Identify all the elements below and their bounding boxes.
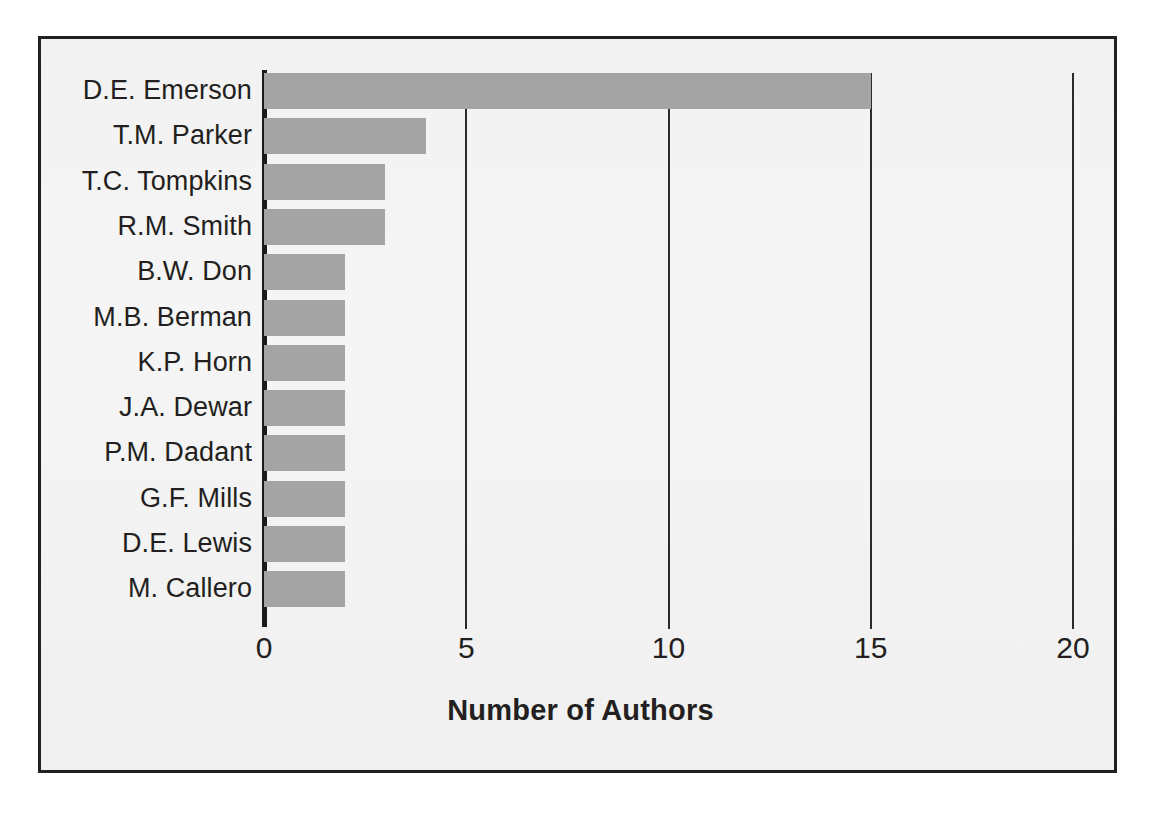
bar [264, 209, 385, 245]
category-label: M.B. Berman [42, 304, 252, 331]
category-label: G.F. Mills [42, 485, 252, 512]
category-label: T.M. Parker [42, 122, 252, 149]
x-axis-title: Number of Authors [41, 694, 1120, 727]
category-label: M. Callero [42, 575, 252, 602]
bar [264, 254, 345, 290]
category-axis-labels: D.E. EmersonT.M. ParkerT.C. TompkinsR.M.… [41, 39, 252, 776]
bar [264, 164, 385, 200]
category-label: B.W. Don [42, 258, 252, 285]
bar [264, 481, 345, 517]
category-label: P.M. Dadant [42, 439, 252, 466]
category-label: R.M. Smith [42, 213, 252, 240]
tick-label: 20 [1056, 631, 1089, 665]
category-label: D.E. Lewis [42, 530, 252, 557]
bar [264, 73, 871, 109]
bar [264, 390, 345, 426]
tick-label: 10 [652, 631, 685, 665]
category-label: J.A. Dewar [42, 394, 252, 421]
bar [264, 435, 345, 471]
bar [264, 571, 345, 607]
tick-label: 15 [854, 631, 887, 665]
gridline [1072, 73, 1074, 629]
bar [264, 300, 345, 336]
chart-frame: D.E. EmersonT.M. ParkerT.C. TompkinsR.M.… [38, 36, 1117, 773]
tick-label: 0 [256, 631, 273, 665]
category-label: T.C. Tompkins [42, 168, 252, 195]
category-label: D.E. Emerson [42, 77, 252, 104]
tick-label: 5 [458, 631, 475, 665]
plot-area: D.E. EmersonT.M. ParkerT.C. TompkinsR.M.… [41, 39, 1120, 776]
figure-canvas: D.E. EmersonT.M. ParkerT.C. TompkinsR.M.… [0, 0, 1158, 821]
bar [264, 526, 345, 562]
gridline [870, 73, 872, 629]
bar [264, 118, 426, 154]
bar [264, 345, 345, 381]
gridline [465, 73, 467, 629]
gridline [668, 73, 670, 629]
category-label: K.P. Horn [42, 349, 252, 376]
